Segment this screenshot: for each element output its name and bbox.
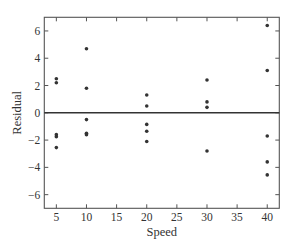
data-point	[55, 81, 59, 85]
data-point	[85, 118, 89, 122]
y-tick-label: 0	[35, 107, 41, 119]
x-tick-label: 25	[171, 211, 183, 223]
x-tick-label: 10	[81, 211, 93, 223]
x-axis-title: Speed	[147, 225, 178, 239]
data-point	[265, 69, 269, 73]
data-point	[205, 149, 209, 153]
data-point	[265, 173, 269, 177]
data-point	[145, 93, 149, 97]
data-points	[55, 24, 269, 177]
y-tick-label: −6	[28, 189, 40, 201]
y-tick-label: −2	[28, 134, 40, 146]
data-point	[85, 47, 89, 51]
data-point	[205, 100, 209, 104]
data-point	[145, 129, 149, 133]
x-tick-label: 20	[141, 211, 153, 223]
residual-scatter-chart: 510152025303540 −6−4−20246 Speed Residua…	[0, 0, 296, 245]
data-point	[145, 104, 149, 108]
y-axis-title: Residual	[10, 90, 24, 134]
y-tick-label: 4	[35, 52, 41, 64]
data-point	[145, 123, 149, 127]
data-point	[265, 134, 269, 138]
x-tick-label: 30	[201, 211, 213, 223]
y-tick-label: 2	[35, 80, 41, 92]
data-point	[205, 106, 209, 110]
data-point	[85, 86, 89, 90]
data-point	[85, 133, 89, 137]
data-point	[145, 140, 149, 144]
y-tick-label: 6	[35, 25, 41, 37]
data-point	[55, 135, 59, 139]
data-point	[205, 78, 209, 82]
data-point	[265, 160, 269, 164]
x-tick-label: 40	[261, 211, 273, 223]
y-tick-label: −4	[28, 161, 40, 173]
x-tick-label: 5	[53, 211, 59, 223]
data-point	[265, 24, 269, 28]
data-point	[55, 146, 59, 150]
x-tick-label: 15	[111, 211, 123, 223]
data-point	[55, 77, 59, 81]
x-tick-label: 35	[231, 211, 243, 223]
